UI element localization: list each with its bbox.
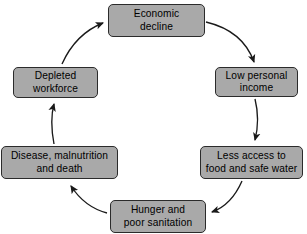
arrow-less-access-to-hunger xyxy=(212,181,242,212)
node-hunger-and-poor-sanitation[interactable]: Hunger and poor sanitation xyxy=(110,200,206,233)
node-disease-malnutrition-and-death[interactable]: Disease, malnutrition and death xyxy=(1,146,118,179)
node-low-personal-income[interactable]: Low personal income xyxy=(215,67,298,97)
cycle-diagram: Economic decline Low personal income Les… xyxy=(0,0,307,234)
node-depleted-workforce[interactable]: Depleted workforce xyxy=(13,67,98,98)
node-less-access-to-food-and-safe-water[interactable]: Less access to food and safe water xyxy=(200,146,303,179)
arrow-economic-decline-to-low-income xyxy=(206,22,254,62)
node-economic-decline[interactable]: Economic decline xyxy=(108,4,205,37)
node-low-personal-income-label: Low personal income xyxy=(226,70,288,95)
node-less-access-label: Less access to food and safe water xyxy=(206,150,297,175)
node-depleted-workforce-label: Depleted workforce xyxy=(33,70,78,95)
arrow-disease-to-depleted xyxy=(52,104,54,144)
node-disease-label: Disease, malnutrition and death xyxy=(11,150,108,175)
node-economic-decline-label: Economic decline xyxy=(134,8,180,33)
arrow-depleted-to-economic-decline xyxy=(62,23,103,64)
arrow-low-income-to-less-access xyxy=(255,99,258,140)
arrow-hunger-to-disease xyxy=(71,186,107,213)
node-hunger-label: Hunger and poor sanitation xyxy=(124,204,192,229)
